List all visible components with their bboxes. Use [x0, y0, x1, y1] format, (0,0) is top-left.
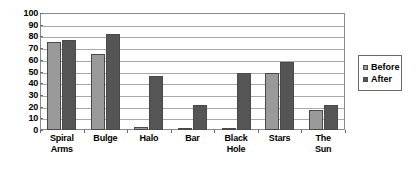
y-axis-tick-label: 60: [2, 56, 38, 65]
bar-before: [91, 54, 105, 130]
y-axis-tick-label: 70: [2, 44, 38, 53]
category-label-line: Bar: [171, 133, 215, 144]
category-label-line: Sun: [301, 144, 345, 155]
category-label-line: Bulge: [84, 133, 128, 144]
y-axis-tick-label: 50: [2, 68, 38, 77]
y-axis-tick-mark: [40, 36, 43, 37]
y-axis-tick-label: 100: [2, 9, 38, 18]
category-label-line: Halo: [127, 133, 171, 144]
bar-after: [324, 105, 338, 130]
y-axis-tick-mark: [40, 107, 43, 108]
x-axis-category-label: Bar: [171, 133, 215, 144]
category-label-line: Stars: [258, 133, 302, 144]
legend-entry-before[interactable]: Before: [363, 62, 398, 72]
bar-before: [265, 73, 279, 130]
x-axis-category-labels: SpiralArmsBulgeHaloBarBlackHoleStarsTheS…: [40, 133, 345, 173]
y-axis-tick-label: 10: [2, 114, 38, 123]
bar-before: [309, 110, 323, 130]
x-axis-category-label: SpiralArms: [40, 133, 84, 155]
bar-after: [193, 105, 207, 130]
bar-after: [106, 34, 120, 130]
y-axis-tick-label: 0: [2, 126, 38, 135]
bar-after: [62, 40, 76, 130]
category-label-line: The: [301, 133, 345, 144]
x-axis-category-label: TheSun: [301, 133, 345, 155]
legend-label-before: Before: [371, 62, 400, 72]
category-label-line: Spiral: [40, 133, 84, 144]
legend-swatch-before-icon: [363, 65, 368, 70]
bar-before: [178, 128, 192, 130]
y-axis-tick-mark: [40, 118, 43, 119]
bar-after: [280, 62, 294, 130]
y-axis-tick-label: 90: [2, 21, 38, 30]
x-axis-category-label: BlackHole: [214, 133, 258, 155]
y-axis-tick-label: 30: [2, 91, 38, 100]
y-axis-tick-mark: [40, 95, 43, 96]
y-axis: 1009080706050403020100: [0, 0, 38, 177]
legend: Before After: [358, 55, 402, 91]
x-axis-category-label: Halo: [127, 133, 171, 144]
y-axis-tick-mark: [40, 13, 43, 14]
bar-after: [149, 76, 163, 130]
legend-label-after: After: [371, 74, 392, 84]
bar-after: [237, 73, 251, 130]
y-axis-tick-mark: [40, 25, 43, 26]
y-axis-tick-mark: [40, 83, 43, 84]
y-axis-tick-label: 80: [2, 32, 38, 41]
legend-entry-after[interactable]: After: [363, 74, 398, 84]
y-axis-tick-label: 20: [2, 103, 38, 112]
bar-before: [222, 128, 236, 130]
y-axis-tick-mark: [40, 60, 43, 61]
bars-layer: [40, 13, 345, 130]
bar-before: [47, 42, 61, 130]
category-label-line: Hole: [214, 144, 258, 155]
x-axis-category-label: Stars: [258, 133, 302, 144]
y-axis-tick-mark: [40, 48, 43, 49]
category-label-line: Arms: [40, 144, 84, 155]
bar-before: [134, 127, 148, 131]
legend-swatch-after-icon: [363, 77, 368, 82]
y-axis-tick-mark: [40, 72, 43, 73]
x-axis-category-label: Bulge: [84, 133, 128, 144]
x-axis-tick-mark: [345, 130, 346, 133]
y-axis-tick-label: 40: [2, 79, 38, 88]
category-label-line: Black: [214, 133, 258, 144]
bar-chart: 1009080706050403020100 SpiralArmsBulgeHa…: [0, 0, 419, 177]
